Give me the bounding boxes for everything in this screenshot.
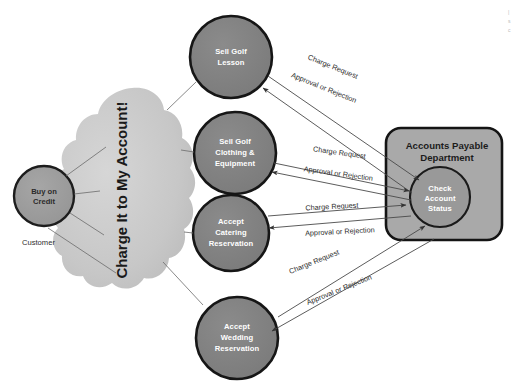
inner-label-line2: Account (424, 194, 455, 203)
use-case-label-line1: Sell Golf (215, 47, 247, 56)
flow-4-request-label: Charge Request (288, 248, 341, 276)
flow-4-response-label: Approval or Rejection (305, 272, 373, 306)
use-case-sell-golf-lesson[interactable]: Sell Golf Lesson (190, 16, 272, 98)
flow-3-request-label: Charge Request (305, 201, 359, 213)
system-box-title-line1: Accounts Payable (406, 140, 489, 151)
actor-label-line2: Credit (33, 197, 55, 206)
use-case-sell-golf-clothing[interactable]: Sell Golf Clothing & Equipment (194, 112, 276, 194)
cloud-to-lesson-line (167, 82, 196, 110)
use-case-label-line3: Equipment (215, 159, 256, 168)
actor-label-line1: Buy on (31, 187, 57, 196)
use-case-label-line2: Catering (215, 228, 247, 237)
use-case-label-line3: Reservation (215, 344, 260, 353)
use-case-circle[interactable] (190, 16, 272, 98)
actor-circle[interactable] (14, 166, 74, 226)
use-case-diagram: Charge It to My Account! Buy on Credit C… (0, 0, 517, 387)
cloud-to-catering-line (184, 232, 193, 233)
use-case-label-line1: Sell Golf (219, 137, 251, 146)
use-case-label-line1: Accept (224, 322, 250, 331)
use-case-accept-wedding-reservation[interactable]: Accept Wedding Reservation (196, 297, 278, 379)
corner-note: | s c (508, 9, 511, 33)
corner-note-line1: | (508, 9, 509, 15)
flow-2-request-label: Charge Request (312, 144, 366, 160)
cloud-to-wedding-line (163, 262, 203, 305)
use-case-label-line2: Clothing & (215, 148, 255, 157)
system-box-title-line2: Department (420, 152, 474, 163)
actor-buy-on-credit[interactable]: Buy on Credit (14, 166, 74, 226)
actor-role-label: Customer (22, 238, 55, 247)
flow-pair-4: Charge Request Approval or Rejection (272, 226, 434, 331)
flow-1-request-label: Charge Request (307, 53, 360, 81)
inner-label-line3: Status (428, 204, 452, 213)
diagram-canvas: Charge It to My Account! Buy on Credit C… (0, 0, 517, 387)
system-accounts-payable-department[interactable]: Accounts Payable Department Check Accoun… (386, 128, 502, 240)
use-case-accept-catering-reservation[interactable]: Accept Catering Reservation (193, 195, 269, 271)
use-case-check-account-status[interactable]: Check Account Status (410, 167, 470, 227)
use-case-label-line3: Reservation (209, 239, 254, 248)
use-case-label-line2: Wedding (221, 333, 254, 342)
corner-note-line3: c (508, 27, 511, 33)
corner-note-line2: s (508, 18, 511, 24)
cloud-label: Charge It to My Account! (113, 102, 130, 279)
flow-3-response-label: Approval or Rejection (305, 225, 375, 238)
use-case-label-line1: Accept (218, 217, 244, 226)
inner-label-line1: Check (428, 184, 452, 193)
use-case-label-line2: Lesson (217, 58, 244, 67)
